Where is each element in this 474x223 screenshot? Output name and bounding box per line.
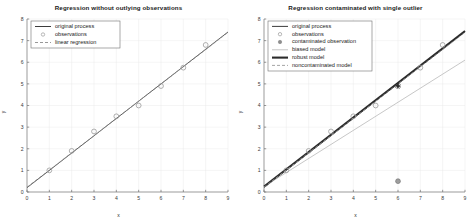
legend: original processobservationslinear regre… [31, 21, 120, 48]
x-tick-label: 9 [227, 195, 230, 201]
y-tick-label: 2 [258, 146, 261, 152]
left-plot-title: Regression without outlying observations [0, 4, 237, 11]
x-tick-label: 4 [115, 195, 118, 201]
legend-marker-swatch [278, 40, 281, 43]
x-tick-label: 3 [93, 195, 96, 201]
y-tick-label: 0 [21, 189, 24, 195]
x-tick-label: 1 [48, 195, 51, 201]
legend-item-label: linear regression [55, 39, 96, 45]
right-plot-panel: Regression contaminated with single outl… [237, 0, 474, 223]
y-tick-label: 8 [258, 16, 261, 22]
y-tick-label: 4 [258, 102, 261, 108]
y-tick-label: 6 [21, 59, 24, 65]
right-plot-title: Regression contaminated with single outl… [237, 4, 474, 11]
legend-item-label: biased model [292, 46, 325, 52]
y-tick-label: 8 [21, 16, 24, 22]
legend: original processobservationscontaminated… [268, 21, 372, 71]
x-tick-label: 1 [285, 195, 288, 201]
x-tick-label: 8 [441, 195, 444, 201]
right-plot-canvas: 0123456789012345678original processobser… [237, 0, 474, 223]
x-tick-label: 3 [330, 195, 333, 201]
x-tick-label: 4 [352, 195, 355, 201]
y-tick-label: 1 [21, 167, 24, 173]
y-tick-label: 7 [258, 38, 261, 44]
legend-item-label: contaminated observation [292, 38, 356, 44]
series-group [27, 32, 228, 188]
y-tick-label: 0 [258, 189, 261, 195]
y-tick-label: 5 [258, 81, 261, 87]
y-tick-label: 3 [258, 124, 261, 130]
legend-item-label: original process [292, 23, 331, 29]
left-x-axis-label: x [0, 212, 237, 218]
x-tick-label: 0 [263, 195, 266, 201]
x-tick-label: 9 [464, 195, 467, 201]
regression-figure: Regression without outlying observations… [0, 0, 474, 223]
legend-item-label: observations [55, 31, 87, 37]
y-tick-label: 1 [258, 167, 261, 173]
legend-item-label: robust model [292, 54, 324, 60]
y-tick-label: 6 [258, 59, 261, 65]
right-x-axis-label: x [237, 212, 474, 218]
x-tick-label: 5 [374, 195, 377, 201]
y-tick-label: 2 [21, 146, 24, 152]
y-tick-label: 4 [21, 102, 24, 108]
left-plot-panel: Regression without outlying observations… [0, 0, 237, 223]
legend-item-label: original process [55, 23, 94, 29]
y-tick-label: 7 [21, 38, 24, 44]
right-y-axis-label: y [237, 110, 243, 113]
series-line-biased-model [264, 60, 465, 187]
x-tick-label: 2 [307, 195, 310, 201]
x-tick-label: 6 [160, 195, 163, 201]
x-tick-label: 0 [26, 195, 29, 201]
left-y-axis-label: y [0, 110, 6, 113]
left-plot-canvas: 0123456789012345678original processobser… [0, 0, 237, 223]
x-tick-label: 6 [397, 195, 400, 201]
y-tick-label: 5 [21, 81, 24, 87]
legend-item-label: observations [292, 31, 324, 37]
x-tick-label: 5 [137, 195, 140, 201]
x-tick-label: 8 [204, 195, 207, 201]
y-tick-label: 3 [21, 124, 24, 130]
contaminated-observation-point [396, 179, 401, 184]
x-tick-label: 7 [182, 195, 185, 201]
x-tick-label: 2 [70, 195, 73, 201]
legend-item-label: noncontaminated model [292, 62, 352, 68]
x-tick-label: 7 [419, 195, 422, 201]
